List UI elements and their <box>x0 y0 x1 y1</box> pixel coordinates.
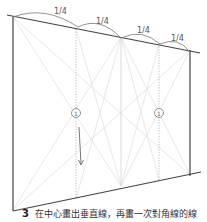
circle-marker-left: 1 <box>72 109 81 118</box>
perspective-wall-diagram: 1/4 1/4 1/4 1/4 1 1 <box>0 0 207 222</box>
step-caption: 3在中心畫出垂直線，再畫一次對角線的線 <box>22 207 207 220</box>
down-arrow-icon <box>79 127 84 165</box>
fraction-label: 1/4 <box>137 26 150 35</box>
caption-text: 在中心畫出垂直線，再畫一次對角線的線 <box>35 209 197 219</box>
svg-text:1: 1 <box>157 110 161 117</box>
fraction-label: 1/4 <box>96 17 109 26</box>
svg-text:1: 1 <box>74 110 78 117</box>
wall-frame <box>7 15 201 211</box>
fraction-label: 1/4 <box>171 34 184 43</box>
fraction-label: 1/4 <box>54 7 67 16</box>
circle-marker-right: 1 <box>155 109 164 118</box>
step-number: 3 <box>22 208 29 219</box>
